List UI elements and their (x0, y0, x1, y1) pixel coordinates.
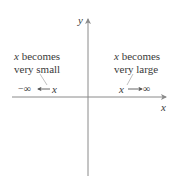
right-annotation-text: becomes (119, 50, 160, 62)
pos-infinity-label: ∞ (143, 83, 150, 95)
left-expression-var: x (52, 83, 57, 95)
left-annotation-text: becomes (19, 50, 60, 62)
x-axis-label: x (161, 101, 166, 113)
left-annotation-line2: very small (14, 63, 60, 75)
left-annotation-line1: x becomes (14, 50, 60, 62)
right-annotation-line1: x becomes (114, 50, 160, 62)
neg-infinity-label: −∞ (18, 83, 31, 95)
right-annotation-line2: very large (114, 63, 158, 75)
left-leader-line (40, 74, 47, 85)
right-expression-var: x (119, 83, 124, 95)
right-leader-line (127, 74, 133, 85)
y-axis-label: y (78, 14, 83, 26)
